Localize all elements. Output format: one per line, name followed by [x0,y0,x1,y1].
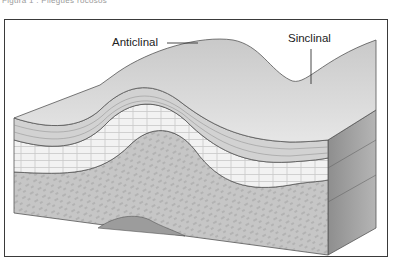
syncline-label: Sinclinal [288,32,331,44]
fold-block-diagram [0,0,398,262]
anticline-label: Anticlinal [112,36,158,48]
